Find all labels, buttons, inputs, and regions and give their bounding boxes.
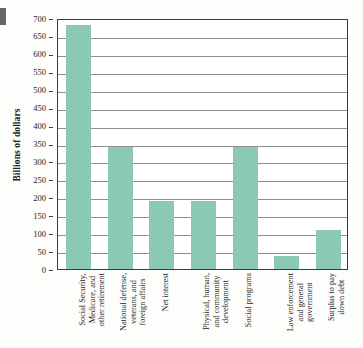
bar[interactable]	[191, 201, 216, 269]
x-axis-label: Social programs	[223, 273, 265, 348]
x-axis-label: Law enforcementand generalgovernment	[265, 273, 307, 348]
x-axis-label: National defense,veterans, andforeign af…	[99, 273, 141, 348]
x-axis-label-line: Physical, human,	[202, 273, 212, 330]
y-axis-tick-label: 700	[33, 15, 46, 24]
bar[interactable]	[108, 147, 133, 269]
y-axis-tick-label: 200	[33, 194, 46, 203]
y-axis-tick	[49, 234, 53, 235]
y-axis-tick-label: 150	[33, 212, 46, 221]
y-axis-tick	[49, 198, 53, 199]
x-axis-label-line: National defense,	[119, 273, 129, 331]
x-axis-label-line: Net interest	[161, 273, 171, 311]
y-axis-tick-label: 0	[42, 266, 46, 275]
bar[interactable]	[233, 147, 258, 269]
bar[interactable]	[316, 230, 341, 269]
y-axis-tick-label: 250	[33, 176, 46, 185]
y-axis-tick	[49, 73, 53, 74]
y-axis-tick	[49, 127, 53, 128]
plot-area	[57, 19, 348, 270]
gridline	[58, 56, 347, 57]
x-axis-label: Net interest	[140, 273, 182, 348]
x-axis-label: Social Security,Medicare, andother retir…	[57, 273, 99, 348]
y-axis-tick	[49, 37, 53, 38]
x-axis-label-line: and general	[295, 273, 305, 331]
x-axis-label: Physical, human,and communitydevelopment	[182, 273, 224, 348]
y-axis-tick-label: 300	[33, 158, 46, 167]
y-axis-tick	[49, 252, 53, 253]
gridline	[58, 110, 347, 111]
y-axis-tick-label: 350	[33, 140, 46, 149]
gridline	[58, 128, 347, 129]
y-axis-tick	[49, 19, 53, 20]
y-axis-tick-label: 600	[33, 50, 46, 59]
y-axis-tick	[49, 270, 53, 271]
x-axis-label: Surplus to paydown debt	[306, 273, 348, 348]
y-axis-tick	[49, 109, 53, 110]
bar[interactable]	[149, 201, 174, 269]
gridline	[58, 92, 347, 93]
y-axis-tick	[49, 145, 53, 146]
y-axis-tick-label: 650	[33, 32, 46, 41]
y-axis-tick-label: 500	[33, 86, 46, 95]
x-axis-label-line: down debt	[337, 273, 347, 321]
y-axis-tick	[49, 91, 53, 92]
x-axis-label-line: Social Security,	[78, 273, 88, 326]
bar[interactable]	[274, 256, 299, 269]
x-axis-label-line: Social programs	[244, 273, 254, 327]
x-axis-label-group: Social Security,Medicare, andother retir…	[57, 273, 348, 348]
bar[interactable]	[66, 25, 91, 269]
y-axis-tick-group: 0501001502002503003504004505005506006507…	[0, 19, 53, 270]
y-axis-tick-label: 50	[38, 248, 47, 257]
gridline	[58, 146, 347, 147]
y-axis-tick-label: 400	[33, 122, 46, 131]
y-axis-tick-label: 550	[33, 68, 46, 77]
gridline	[58, 74, 347, 75]
y-axis-tick-label: 450	[33, 104, 46, 113]
y-axis-tick	[49, 216, 53, 217]
x-axis-label-line: Surplus to pay	[327, 273, 337, 321]
gridline	[58, 38, 347, 39]
x-axis-label-line: veterans, and	[129, 273, 139, 331]
figure-canvas: Billions of dollars 05010015020025030035…	[0, 0, 363, 348]
x-axis-label-line: Law enforcement	[286, 273, 296, 331]
gridline	[58, 181, 347, 182]
y-axis-tick-label: 100	[33, 230, 46, 239]
y-axis-tick	[49, 180, 53, 181]
y-axis-tick	[49, 162, 53, 163]
y-axis-tick	[49, 55, 53, 56]
gridline	[58, 163, 347, 164]
x-axis-label-line: Medicare, and	[87, 273, 97, 326]
